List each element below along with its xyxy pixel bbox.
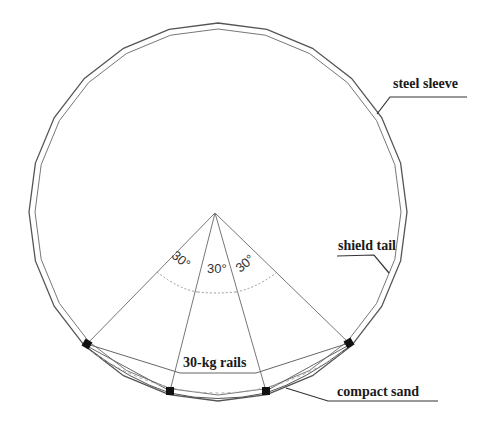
shield-tail-leader [337, 255, 389, 273]
shield-tail-label: shield tail [338, 238, 396, 253]
rails-label: 30-kg rails [183, 355, 247, 370]
angle-label-left: 30° [169, 247, 194, 271]
angle-label-middle: 30° [207, 261, 227, 276]
rail-bottom-left [166, 387, 174, 395]
diagram-canvas: 30° 30° 30° steel sleeve shield tail 30-… [0, 0, 493, 430]
compact-sand-label: compact sand [337, 384, 419, 399]
shield-cross-section: 30° 30° 30° steel sleeve shield tail 30-… [0, 0, 493, 430]
steel-sleeve-label: steel sleeve [393, 76, 458, 91]
steel-sleeve-leader [377, 97, 467, 114]
rail-bottom-right [262, 387, 270, 395]
angle-label-right: 30° [232, 251, 257, 275]
